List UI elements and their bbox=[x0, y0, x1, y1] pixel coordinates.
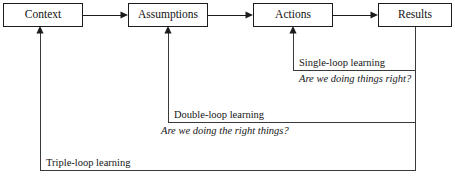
loop-learning-diagram: Context Assumptions Actions Results Sing… bbox=[0, 0, 455, 177]
double-loop-question: Are we doing the right things? bbox=[160, 125, 289, 136]
double-loop-title: Double-loop learning bbox=[174, 109, 265, 120]
node-context-label: Context bbox=[25, 8, 62, 20]
triple-loop-path bbox=[40, 33, 415, 170]
diagram-canvas: Context Assumptions Actions Results Sing… bbox=[0, 0, 455, 177]
flow-arrowhead-actions bbox=[246, 11, 254, 18]
triple-loop-arrowhead bbox=[36, 26, 43, 34]
single-loop-arrowhead bbox=[289, 26, 296, 34]
triple-loop-label-group: Triple-loop learning bbox=[46, 157, 131, 168]
single-loop-title: Single-loop learning bbox=[299, 57, 386, 68]
node-actions-label: Actions bbox=[275, 8, 311, 20]
flow-arrowhead-results bbox=[371, 11, 379, 18]
double-loop-arrowhead bbox=[164, 26, 171, 34]
node-context[interactable]: Context bbox=[4, 4, 83, 27]
flow-arrowhead-assumptions bbox=[121, 11, 129, 18]
single-loop-question: Are we doing things right? bbox=[298, 73, 412, 84]
node-assumptions-label: Assumptions bbox=[138, 8, 199, 21]
node-results[interactable]: Results bbox=[379, 4, 452, 27]
node-results-label: Results bbox=[398, 8, 432, 20]
node-assumptions[interactable]: Assumptions bbox=[129, 4, 208, 27]
node-actions[interactable]: Actions bbox=[254, 4, 333, 27]
triple-loop-title: Triple-loop learning bbox=[46, 157, 131, 168]
